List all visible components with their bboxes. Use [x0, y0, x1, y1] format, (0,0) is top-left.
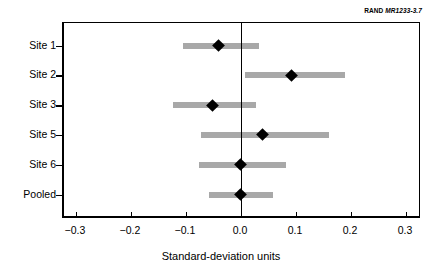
- y-axis-tick: [56, 195, 63, 197]
- x-axis-label: −0.1: [155, 224, 215, 236]
- y-axis-tick: [56, 135, 63, 137]
- x-axis-tick: [296, 212, 298, 218]
- y-axis-tick: [56, 75, 63, 77]
- x-axis-title: Standard-deviation units: [0, 250, 442, 262]
- x-axis-tick: [186, 212, 188, 218]
- y-axis-label: Site 2: [0, 68, 56, 80]
- y-axis-tick: [56, 165, 63, 167]
- plot-area: [62, 22, 420, 218]
- point-estimate-marker: [213, 39, 226, 52]
- x-axis-label: −0.3: [45, 224, 105, 236]
- x-axis-tick: [351, 212, 353, 218]
- forest-plot-figure: RAND MR1233-3.7 Standard-deviation units…: [0, 0, 442, 275]
- x-axis-label: 0.1: [265, 224, 325, 236]
- y-axis-label: Site 3: [0, 98, 56, 110]
- x-axis-label: −0.2: [100, 224, 160, 236]
- zero-reference-line: [241, 23, 242, 217]
- point-estimate-marker: [257, 129, 270, 142]
- y-axis-label: Site 1: [0, 39, 56, 51]
- source-code: MR1233-3.7: [385, 7, 422, 14]
- y-axis-tick: [56, 105, 63, 107]
- y-axis-label: Pooled: [0, 188, 56, 200]
- x-axis-label: 0.3: [375, 224, 435, 236]
- point-estimate-marker: [285, 69, 298, 82]
- point-estimate-marker: [207, 99, 220, 112]
- x-axis-label: 0.2: [320, 224, 380, 236]
- x-axis-tick: [76, 212, 78, 218]
- y-axis-tick: [56, 46, 63, 48]
- x-axis-tick: [406, 212, 408, 218]
- y-axis-label: Site 5: [0, 128, 56, 140]
- x-axis-tick: [131, 212, 133, 218]
- y-axis-label: Site 6: [0, 158, 56, 170]
- source-label: RAND MR1233-3.7: [364, 7, 422, 14]
- x-axis-label: 0.0: [210, 224, 270, 236]
- source-org: RAND: [364, 7, 383, 14]
